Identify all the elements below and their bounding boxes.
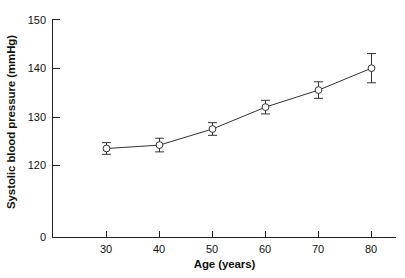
error-bars — [102, 54, 376, 155]
data-point-marker — [156, 142, 163, 149]
y-axis-ticks — [53, 20, 60, 166]
series-line — [107, 68, 372, 148]
x-axis-ticks — [107, 231, 372, 237]
data-point-marker — [368, 65, 375, 72]
chart-figure: Systolic blood pressure (mmHg) 150 140 1… — [0, 0, 405, 278]
data-point-marker — [315, 87, 322, 94]
data-point-marker — [262, 104, 269, 111]
axis-lines — [52, 19, 396, 238]
data-point-marker — [209, 126, 216, 133]
data-point-marker — [103, 145, 110, 152]
data-point-markers — [103, 65, 375, 152]
plot-area — [0, 0, 405, 278]
